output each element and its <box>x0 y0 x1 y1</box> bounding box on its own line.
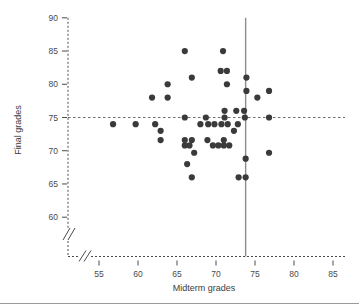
data-points-group <box>110 48 272 180</box>
y-tick-label: 80 <box>49 79 59 89</box>
data-point <box>189 75 195 81</box>
tick-labels-group: 6065707580859055606570758085 <box>49 13 338 279</box>
x-tick-label: 65 <box>172 269 182 279</box>
data-point <box>203 114 209 120</box>
data-point <box>204 137 210 143</box>
data-point <box>182 114 188 120</box>
data-point <box>220 48 226 54</box>
data-point <box>152 121 158 127</box>
data-point <box>243 156 249 162</box>
data-point <box>215 142 221 148</box>
data-point <box>254 94 260 100</box>
data-point <box>221 137 227 143</box>
data-point <box>189 137 195 143</box>
data-point <box>266 114 272 120</box>
data-point <box>210 142 216 148</box>
data-point <box>218 68 224 74</box>
y-tick-label: 75 <box>49 113 59 123</box>
x-tick-label: 55 <box>94 269 104 279</box>
data-point <box>221 142 227 148</box>
x-tick-label: 75 <box>250 269 260 279</box>
y-tick-label: 70 <box>49 146 59 156</box>
data-point <box>224 68 230 74</box>
data-point <box>186 142 192 148</box>
data-point <box>243 88 249 94</box>
data-point <box>189 174 195 180</box>
y-tick-label: 85 <box>49 46 59 56</box>
data-point <box>158 128 164 134</box>
scatter-plot-figure: 6065707580859055606570758085 Midterm gra… <box>0 0 359 308</box>
y-tick-label: 60 <box>49 212 59 222</box>
data-point <box>218 121 224 127</box>
y-tick-label: 65 <box>49 179 59 189</box>
data-point <box>133 121 139 127</box>
y-axis-title: Final grades <box>13 105 23 155</box>
data-point <box>226 142 232 148</box>
x-tick-label: 70 <box>211 269 221 279</box>
x-tick-label: 85 <box>328 269 338 279</box>
tick-marks-group <box>62 18 333 266</box>
data-point <box>243 75 249 81</box>
data-point <box>242 114 248 120</box>
data-point <box>221 114 227 120</box>
data-point <box>191 150 197 156</box>
data-point <box>241 108 247 114</box>
data-point <box>197 121 203 127</box>
data-point <box>266 150 272 156</box>
data-point <box>221 108 227 114</box>
data-point <box>205 121 211 127</box>
data-point <box>243 174 249 180</box>
data-point <box>266 88 272 94</box>
data-point <box>182 137 188 143</box>
data-point <box>224 81 230 87</box>
data-point <box>110 121 116 127</box>
data-point <box>211 121 217 127</box>
data-point <box>165 81 171 87</box>
data-point <box>231 128 237 134</box>
x-axis-title: Midterm grades <box>173 283 236 293</box>
x-tick-label: 60 <box>133 269 143 279</box>
data-point <box>182 48 188 54</box>
x-tick-label: 80 <box>289 269 299 279</box>
data-point <box>184 161 190 167</box>
data-point <box>165 94 171 100</box>
data-point <box>158 137 164 143</box>
data-point <box>236 174 242 180</box>
chart-canvas: 6065707580859055606570758085 Midterm gra… <box>0 0 359 308</box>
data-point <box>225 121 231 127</box>
data-point <box>233 108 239 114</box>
data-point <box>149 94 155 100</box>
data-point <box>235 121 241 127</box>
y-tick-label: 90 <box>49 13 59 23</box>
